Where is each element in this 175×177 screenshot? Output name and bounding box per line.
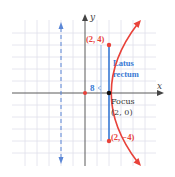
y-axis-label: y [89, 12, 96, 22]
latus-rectum-label-line2: rectum [113, 69, 139, 79]
focus-coords-label: (2, 0) [111, 108, 133, 117]
y-axis-arrow-icon [82, 14, 88, 21]
point-lower-label: (2, −4) [111, 132, 134, 142]
focus-point [107, 91, 112, 96]
point-upper [107, 43, 111, 47]
focus-label: Focus [111, 97, 135, 106]
directrix-arrow-down-icon [59, 157, 64, 164]
vertex-point [83, 91, 87, 95]
x-axis-label: x [157, 81, 162, 91]
parabola-diagram: x y 8 Latus rectum (2, 4) (2, −4) Focus … [0, 0, 175, 177]
point-upper-label: (2, 4) [86, 34, 105, 44]
directrix-arrow-up-icon [59, 22, 64, 29]
latus-rectum-length-label: 8 [90, 83, 95, 93]
